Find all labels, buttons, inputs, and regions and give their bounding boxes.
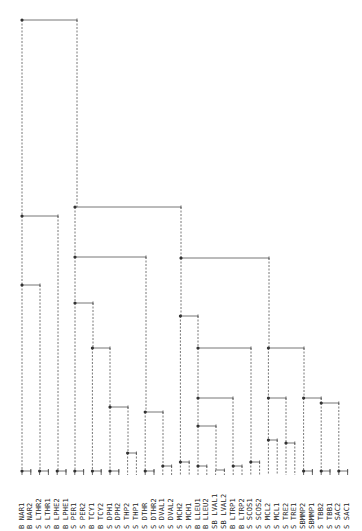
leaf-label: B LPHE2	[54, 498, 61, 529]
leaf-label: B LTRP1	[230, 498, 237, 529]
leaf-label: B NAR2	[27, 503, 34, 530]
leaf-label-axis: B NAR1B NAR2S LTHR2S LTHR1B LPHE2B LPHE1…	[0, 0, 362, 531]
leaf-label: S LTHR1	[45, 498, 52, 529]
leaf-label: S LTHR2	[36, 498, 43, 529]
leaf-label: B LPHE1	[63, 498, 70, 529]
leaf-label: S PER2	[80, 503, 87, 530]
leaf-label: S MCL2	[265, 503, 272, 530]
leaf-label: B TCY2	[98, 503, 105, 530]
leaf-label: B NAR1	[19, 503, 26, 530]
leaf-label: S TRE1	[291, 503, 298, 530]
leaf-label: B LLEU1	[195, 498, 202, 529]
leaf-label: S MCL1	[274, 503, 281, 530]
leaf-label: S TBB2	[318, 503, 325, 530]
leaf-label: S SAC1	[344, 503, 351, 530]
leaf-label: S MCH1	[186, 503, 193, 530]
leaf-label: SB LVAL1	[212, 494, 219, 529]
leaf-label: S TBB1	[327, 503, 334, 530]
leaf-label: S SCOS1	[247, 498, 254, 529]
leaf-label: SBMMP2	[300, 503, 307, 530]
leaf-label: S DVAL1	[159, 498, 166, 529]
leaf-label: S DPH1	[107, 503, 114, 530]
leaf-label: S SCOS2	[256, 498, 263, 529]
leaf-label: SB LVAL2	[221, 494, 228, 529]
leaf-label: B LTRP2	[239, 498, 246, 529]
leaf-label: S DVAL2	[168, 498, 175, 529]
leaf-label: S PER1	[71, 503, 78, 530]
leaf-label: S DTHR	[142, 503, 149, 530]
leaf-label: S THP1	[133, 503, 140, 530]
leaf-label: S THP2	[124, 503, 131, 530]
leaf-label: S SAC2	[335, 503, 342, 530]
leaf-label: B TCY1	[89, 503, 96, 530]
leaf-label: SBMMP1	[309, 503, 316, 530]
leaf-label: S DPH2	[115, 503, 122, 530]
leaf-label: B LLEU2	[203, 498, 210, 529]
leaf-label: S MCH2	[177, 503, 184, 530]
leaf-label: S TRE2	[283, 503, 290, 530]
leaf-label: S DTHR2	[151, 498, 158, 529]
